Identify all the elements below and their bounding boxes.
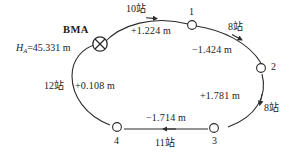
segment-height-diff-2-3: +1.781 m — [200, 91, 240, 101]
segment-arrow-1-2 — [232, 35, 241, 40]
node-circle-2 — [257, 64, 266, 73]
segment-height-diff-4-bma: +0.108 m — [75, 81, 115, 91]
height-value: =45.331 m — [27, 42, 70, 53]
loop-diagram-svg — [0, 0, 292, 158]
node-circle-4 — [113, 123, 122, 132]
segment-height-diff-bma-1: +1.224 m — [131, 26, 171, 36]
node-label-3: 3 — [212, 136, 217, 146]
benchmark-height-label: HA=45.331 m — [16, 43, 71, 53]
benchmark-symbol-icon — [93, 37, 107, 51]
node-label-2: 2 — [271, 62, 276, 72]
segment-stations-3-4: 11站 — [155, 138, 175, 148]
benchmark-name-label: BMA — [63, 25, 89, 36]
node-label-1: 1 — [189, 7, 194, 17]
segment-stations-bma-1: 10站 — [126, 4, 146, 14]
node-label-4: 4 — [114, 136, 119, 146]
segment-arrow-bma-1 — [146, 18, 156, 19]
segment-stations-2-3: 8站 — [264, 103, 279, 113]
segment-height-diff-3-4: −1.714 m — [146, 113, 186, 123]
segment-stations-1-2: 8站 — [228, 22, 243, 32]
node-circle-3 — [210, 124, 219, 133]
leveling-loop-figure: BMA HA=45.331 m 1 2 3 4 10站 +1.224 m 8站 … — [0, 0, 292, 158]
segment-height-diff-1-2: −1.424 m — [192, 45, 232, 55]
node-circle-1 — [188, 21, 197, 30]
segment-stations-4-bma: 12站 — [44, 81, 64, 91]
height-subscript: A — [23, 47, 27, 54]
